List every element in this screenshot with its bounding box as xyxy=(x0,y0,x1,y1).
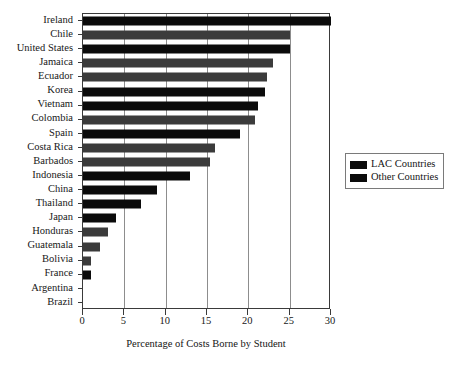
x-axis-tick-label-0: 0 xyxy=(79,316,84,327)
y-axis-labels: IrelandChileUnited StatesJamaicaEcuadorK… xyxy=(0,13,78,309)
y-axis-label-jamaica: Jamaica xyxy=(0,55,78,69)
bar-row xyxy=(83,211,329,225)
y-axis-label-barbados: Barbados xyxy=(0,154,78,168)
bar-row xyxy=(83,296,329,310)
bar-spain xyxy=(83,129,240,138)
y-axis-label-thailand: Thailand xyxy=(0,196,78,210)
x-axis-title: Percentage of Costs Borne by Student xyxy=(82,338,330,349)
chart-figure: IrelandChileUnited StatesJamaicaEcuadorK… xyxy=(0,0,455,369)
bar-guatemala xyxy=(83,242,100,251)
y-axis-label-brazil: Brazil xyxy=(0,295,78,309)
bar-row xyxy=(83,282,329,296)
bar-row xyxy=(83,141,329,155)
y-axis-label-france: France xyxy=(0,267,78,281)
y-axis-label-colombia: Colombia xyxy=(0,112,78,126)
bar-barbados xyxy=(83,157,210,166)
bar-korea xyxy=(83,87,265,96)
bar-row xyxy=(83,155,329,169)
bar-row xyxy=(83,183,329,197)
legend-label: LAC Countries xyxy=(371,159,435,170)
bar-bolivia xyxy=(83,256,91,265)
plot-area xyxy=(82,13,330,309)
legend-swatch-icon xyxy=(350,174,367,182)
x-axis-tick-labels: 051015202530 xyxy=(82,316,330,330)
bar-ireland xyxy=(83,17,331,26)
legend-swatch-icon xyxy=(350,161,367,169)
bar-ecuador xyxy=(83,73,267,82)
x-axis-tick-label-25: 25 xyxy=(283,316,294,327)
bar-china xyxy=(83,186,157,195)
y-axis-label-china: China xyxy=(0,182,78,196)
bar-row xyxy=(83,84,329,98)
y-axis-label-bolivia: Bolivia xyxy=(0,253,78,267)
bar-row xyxy=(83,99,329,113)
y-axis-label-costa-rica: Costa Rica xyxy=(0,140,78,154)
y-axis-label-indonesia: Indonesia xyxy=(0,168,78,182)
y-axis-label-ireland: Ireland xyxy=(0,13,78,27)
bar-honduras xyxy=(83,228,108,237)
bar-costa-rica xyxy=(83,143,215,152)
bar-colombia xyxy=(83,115,255,124)
x-axis-tick-label-30: 30 xyxy=(325,316,336,327)
bar-jamaica xyxy=(83,59,273,68)
legend-entry: LAC Countries xyxy=(350,158,438,171)
bar-vietnam xyxy=(83,101,258,110)
chart-legend: LAC CountriesOther Countries xyxy=(345,153,444,189)
bar-thailand xyxy=(83,200,141,209)
y-axis-label-ecuador: Ecuador xyxy=(0,69,78,83)
x-axis-tick-label-10: 10 xyxy=(159,316,170,327)
bar-row xyxy=(83,56,329,70)
y-axis-label-korea: Korea xyxy=(0,83,78,97)
x-axis-tick-label-15: 15 xyxy=(201,316,212,327)
x-axis-tick-label-5: 5 xyxy=(121,316,126,327)
bar-row xyxy=(83,254,329,268)
y-axis-label-argentina: Argentina xyxy=(0,281,78,295)
y-axis-label-united-states: United States xyxy=(0,41,78,55)
bar-row xyxy=(83,268,329,282)
bar-row xyxy=(83,14,329,28)
bar-row xyxy=(83,169,329,183)
bar-japan xyxy=(83,214,116,223)
bar-chile xyxy=(83,31,290,40)
y-axis-label-chile: Chile xyxy=(0,27,78,41)
bar-row xyxy=(83,113,329,127)
x-axis-tick-label-20: 20 xyxy=(242,316,253,327)
bar-row xyxy=(83,127,329,141)
bar-row xyxy=(83,70,329,84)
bar-series xyxy=(83,14,329,308)
bar-row xyxy=(83,28,329,42)
legend-label: Other Countries xyxy=(371,172,438,183)
y-axis-label-guatemala: Guatemala xyxy=(0,239,78,253)
bar-row xyxy=(83,197,329,211)
bar-united-states xyxy=(83,45,290,54)
bar-row xyxy=(83,225,329,239)
y-axis-label-japan: Japan xyxy=(0,210,78,224)
bar-row xyxy=(83,240,329,254)
y-axis-label-vietnam: Vietnam xyxy=(0,98,78,112)
legend-entry: Other Countries xyxy=(350,171,438,184)
bar-indonesia xyxy=(83,172,190,181)
y-axis-label-spain: Spain xyxy=(0,126,78,140)
bar-row xyxy=(83,42,329,56)
bar-france xyxy=(83,270,91,279)
y-axis-label-honduras: Honduras xyxy=(0,224,78,238)
